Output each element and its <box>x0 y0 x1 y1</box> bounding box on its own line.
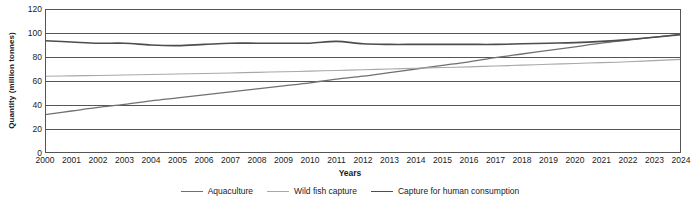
legend-swatch-line-icon <box>267 191 289 192</box>
y-axis-tick-labels: 020406080100120 <box>18 0 42 160</box>
legend-swatch-line-icon <box>371 191 393 192</box>
legend-item[interactable]: Aquaculture <box>181 186 253 196</box>
x-axis-tick-label: 2006 <box>195 155 214 166</box>
x-axis-tick-label: 2008 <box>248 155 267 166</box>
data-series-group <box>45 34 681 114</box>
x-axis-tick-label: 2011 <box>327 155 345 166</box>
x-axis-tick-label: 2023 <box>645 155 664 166</box>
chart-figure: Quantity (million tonnes) 02040608010012… <box>0 0 700 202</box>
x-axis-tick-labels: 2000200120022003200420052006200720082009… <box>45 155 681 167</box>
x-axis-tick-label: 2014 <box>407 155 426 166</box>
x-axis-title-text: Years <box>339 168 362 178</box>
y-axis-title-text: Quantity (million tonnes) <box>7 32 16 129</box>
series-line <box>45 35 681 46</box>
legend-item[interactable]: Wild fish capture <box>267 186 357 196</box>
gridlines <box>45 10 681 154</box>
legend-swatch-line-icon <box>181 191 203 192</box>
x-axis-tick-label: 2013 <box>380 155 399 166</box>
legend-label: Aquaculture <box>208 186 253 196</box>
y-axis-tick-label: 80 <box>18 53 42 62</box>
plot-area <box>45 9 681 153</box>
x-axis-tick-label: 2005 <box>168 155 187 166</box>
x-axis-tick-label: 2015 <box>433 155 452 166</box>
chart-svg <box>45 9 681 153</box>
x-axis-tick-label: 2012 <box>354 155 373 166</box>
y-axis-tick-label: 60 <box>18 77 42 86</box>
x-axis-tick-label: 2009 <box>274 155 293 166</box>
y-axis-tick-label: 40 <box>18 101 42 110</box>
x-axis-tick-label: 2017 <box>486 155 505 166</box>
x-axis-title: Years <box>0 168 700 178</box>
x-axis-tick-label: 2003 <box>115 155 134 166</box>
x-axis-tick-label: 2022 <box>619 155 638 166</box>
legend-label: Wild fish capture <box>294 186 357 196</box>
series-line <box>45 59 681 76</box>
x-axis-tick-label: 2007 <box>221 155 240 166</box>
legend-label: Capture for human consumption <box>398 186 519 196</box>
x-axis-tick-label: 2002 <box>89 155 108 166</box>
legend-item[interactable]: Capture for human consumption <box>371 186 519 196</box>
x-axis-tick-label: 2010 <box>301 155 320 166</box>
x-axis-tick-label: 2021 <box>592 155 611 166</box>
x-axis-tick-label: 2018 <box>513 155 532 166</box>
x-axis-tick-label: 2000 <box>36 155 55 166</box>
y-axis-tick-label: 20 <box>18 125 42 134</box>
chart-legend: AquacultureWild fish captureCapture for … <box>0 186 700 196</box>
y-axis-tick-label: 100 <box>18 29 42 38</box>
x-axis-tick-label: 2019 <box>539 155 558 166</box>
x-axis-tick-label: 2020 <box>566 155 585 166</box>
x-axis-tick-label: 2004 <box>142 155 161 166</box>
x-axis-tick-label: 2016 <box>460 155 479 166</box>
y-axis-tick-label: 120 <box>18 5 42 14</box>
x-axis-tick-label: 2024 <box>672 155 691 166</box>
x-axis-tick-label: 2001 <box>62 155 81 166</box>
